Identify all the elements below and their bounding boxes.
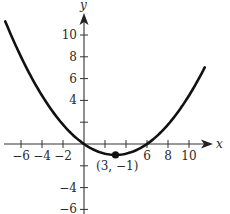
vertex-point: [112, 151, 119, 158]
y-tick-label: −6: [59, 202, 77, 214]
x-axis-label: x: [216, 137, 223, 151]
y-tick-label: −4: [59, 181, 77, 195]
x-tick-label: 8: [164, 149, 172, 163]
x-tick-label: −2: [54, 149, 72, 163]
x-tick-label: −6: [12, 149, 30, 163]
tick-labels: −6−4−2681010864−4−6: [12, 28, 196, 214]
x-tick-label: −4: [33, 149, 51, 163]
y-tick-label: 4: [69, 93, 77, 107]
y-tick-label: 10: [62, 28, 77, 42]
y-tick-label: 6: [69, 72, 77, 86]
x-tick-label: 10: [181, 149, 196, 163]
y-axis-label: y: [79, 0, 87, 12]
y-tick-label: 8: [69, 50, 77, 64]
parabola-graph: x y −6−4−2681010864−4−6 (3, −1): [0, 0, 230, 214]
x-tick-label: 6: [143, 149, 151, 163]
parabola-curve: [5, 21, 205, 155]
vertex-label: (3, −1): [96, 159, 138, 173]
